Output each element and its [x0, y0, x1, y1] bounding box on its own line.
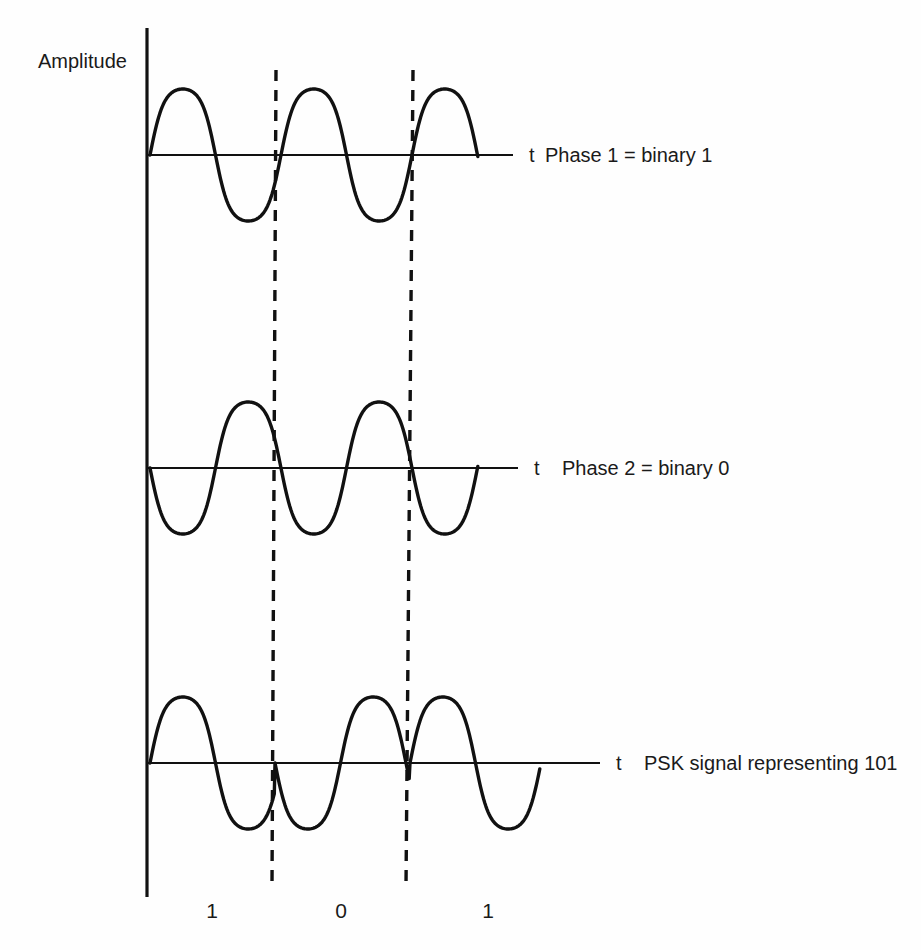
time-axis-symbol-psk-signal: t [616, 752, 622, 774]
bit-label: 1 [482, 899, 494, 922]
psk-diagram: Amplitude t Phase 1 = binary 1 t Phase 2… [0, 0, 921, 950]
time-axis-symbol-phase-2: t [534, 457, 540, 479]
amplitude-axis-label: Amplitude [38, 50, 127, 72]
caption-phase-1: Phase 1 = binary 1 [545, 144, 712, 166]
psk-waveform-figure: Amplitude t Phase 1 = binary 1 t Phase 2… [0, 0, 921, 950]
waveform-phase-2: t Phase 2 = binary 0 [147, 402, 729, 534]
caption-phase-2: Phase 2 = binary 0 [562, 457, 729, 479]
waveform-phase-1: t Phase 1 = binary 1 [147, 89, 712, 221]
bit-label: 0 [335, 899, 347, 922]
time-axis-symbol-phase-1: t [529, 144, 535, 166]
waveform-psk-signal: t PSK signal representing 101 [147, 697, 898, 829]
bit-sequence-labels: 101 [206, 899, 494, 922]
caption-psk-signal: PSK signal representing 101 [644, 752, 898, 774]
bit-label: 1 [206, 899, 218, 922]
